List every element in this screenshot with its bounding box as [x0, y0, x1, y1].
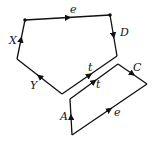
label-d: D	[119, 26, 129, 39]
label-e-top: e	[70, 3, 77, 16]
diagram-canvas: e D t Y X t C e A	[0, 0, 157, 141]
vertex-dot	[23, 18, 27, 22]
vertex-dot	[108, 13, 112, 17]
edge-x	[17, 20, 25, 59]
edge-t-lower	[70, 64, 118, 99]
label-t-upper: t	[88, 61, 93, 74]
edge-y	[17, 59, 62, 94]
label-y: Y	[30, 79, 39, 92]
label-e-lower: e	[114, 106, 121, 119]
label-a: A	[59, 110, 68, 123]
edge-e-top	[25, 15, 110, 20]
lower-loop	[70, 64, 147, 135]
label-x: X	[8, 34, 18, 47]
label-c: C	[133, 61, 142, 74]
edge-e-lower	[72, 84, 147, 135]
label-t-lower: t	[96, 78, 101, 91]
edge-d	[110, 15, 117, 56]
loops-diagram: e D t Y X t C e A	[0, 0, 157, 141]
edge-a	[70, 99, 72, 135]
